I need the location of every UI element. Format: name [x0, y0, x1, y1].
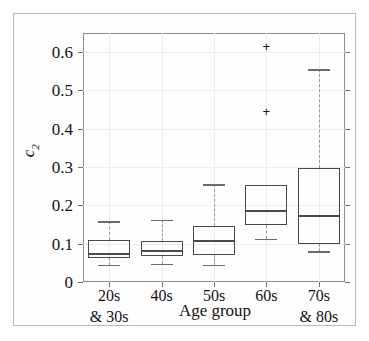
median-line: [298, 215, 340, 217]
whisker-cap-lower: [308, 251, 330, 252]
y-axis-title-base: c: [19, 150, 38, 158]
box-iqr: [298, 168, 340, 244]
y-tick-mark-right: [345, 167, 350, 168]
y-tick-mark-right: [345, 244, 350, 245]
y-axis-title: c2: [19, 131, 40, 171]
y-tick-mark-right: [345, 90, 350, 91]
y-tick-mark-right: [345, 52, 350, 53]
x-axis-title: Age group: [125, 301, 305, 321]
plot-area: [83, 33, 345, 282]
y-tick-label: 0: [21, 274, 73, 291]
whisker-upper: [319, 69, 320, 167]
y-tick-mark-right: [345, 282, 350, 283]
y-tick-mark-right: [345, 129, 350, 130]
y-axis-title-subscript: 2: [29, 144, 41, 150]
whisker-cap-upper: [308, 69, 330, 70]
box-plot-figure: 00.10.20.30.40.50.6 20s& 30s40s50s60s70s…: [0, 0, 369, 341]
y-tick-mark-right: [345, 205, 350, 206]
box-plot-group: [83, 33, 345, 282]
whisker-lower: [319, 244, 320, 252]
y-tick-label: 0.6: [21, 44, 73, 61]
y-tick-mark: [78, 282, 83, 283]
y-tick-label: 0.5: [21, 82, 73, 99]
y-tick-label: 0.2: [21, 197, 73, 214]
y-tick-label: 0.1: [21, 236, 73, 253]
